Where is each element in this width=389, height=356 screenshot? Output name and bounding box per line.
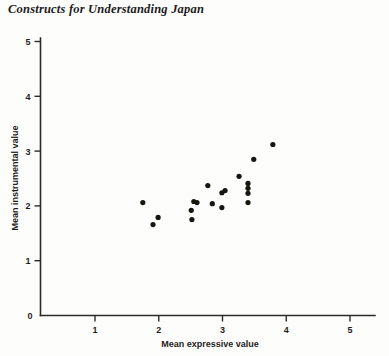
axes-group <box>41 38 376 316</box>
y-tick-label: 5 <box>25 37 30 47</box>
x-tick-label: 1 <box>92 325 97 335</box>
data-point <box>236 174 241 179</box>
y-tick-label: 4 <box>25 92 30 102</box>
data-point <box>270 142 275 147</box>
data-point <box>219 205 224 210</box>
data-point <box>156 215 161 220</box>
data-point <box>140 200 145 205</box>
figure-panel: Constructs for Understanding Japan 12345… <box>0 0 389 356</box>
y-tick-label: 2 <box>25 201 30 211</box>
x-tick-label: 5 <box>347 325 352 335</box>
x-tick-label: 2 <box>156 325 161 335</box>
scatter-plot: 12345 12345 0 Mean expressive value Mean… <box>0 0 389 356</box>
data-point <box>150 222 155 227</box>
y-axis-title: Mean instrumental value <box>10 125 20 230</box>
x-axis-title: Mean expressive value <box>161 339 259 349</box>
origin-tick-label: 0 <box>27 311 32 321</box>
y-tick-group: 12345 <box>25 37 40 266</box>
data-point <box>245 200 250 205</box>
x-tick-label: 3 <box>220 325 225 335</box>
y-tick-label: 1 <box>25 256 30 266</box>
x-tick-label: 4 <box>284 325 289 335</box>
data-point <box>245 191 250 196</box>
data-point <box>222 188 227 193</box>
data-point <box>189 208 194 213</box>
data-points-group <box>140 142 275 227</box>
data-point <box>245 181 250 186</box>
data-point <box>189 217 194 222</box>
data-point <box>251 157 256 162</box>
x-tick-group: 12345 <box>92 316 352 335</box>
data-point <box>205 183 210 188</box>
data-point <box>194 200 199 205</box>
data-point <box>245 186 250 191</box>
y-tick-label: 3 <box>25 147 30 157</box>
data-point <box>210 201 215 206</box>
